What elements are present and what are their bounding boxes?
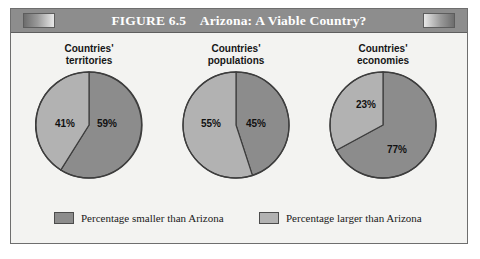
figure-title: FIGURE 6.5 Arizona: A Viable Country? [11,9,467,33]
pie-chart-heading: Countries' territories [19,43,159,67]
pie-chart-countries-economies: Countries' economies 77% 23% [313,33,453,208]
pie-chart-heading: Countries' economies [313,43,453,67]
pie-chart-heading-line1: Countries' [64,43,113,54]
pie-svg [35,71,143,179]
pie-chart-heading-line2: territories [19,55,159,67]
legend-item-smaller: Percentage smaller than Arizona [54,209,224,227]
pie-slice-value-smaller: 59% [97,118,117,129]
pie-chart-countries-territories: Countries' territories 59% 41% [19,33,159,208]
pie-chart-heading-line1: Countries' [211,43,260,54]
legend-item-larger: Percentage larger than Arizona [259,209,422,227]
figure-title-bar: FIGURE 6.5 Arizona: A Viable Country? [11,9,467,33]
pie-chart-heading-line2: economies [313,55,453,67]
pie-svg [182,71,290,179]
chart-legend: Percentage smaller than Arizona Percenta… [11,209,467,233]
legend-swatch-smaller-icon [54,212,74,224]
figure-root: FIGURE 6.5 Arizona: A Viable Country? Co… [0,0,480,259]
pie-chart-heading-line2: populations [166,55,306,67]
pie-chart-countries-populations: Countries' populations 45% 55% [166,33,306,208]
pie-charts-row: Countries' territories 59% 41% [11,33,467,208]
pie-graphic: 77% 23% [329,71,437,179]
legend-label-smaller: Percentage smaller than Arizona [81,212,224,224]
pie-slice-value-larger: 41% [55,118,75,129]
pie-slice-value-smaller: 77% [387,144,407,155]
pie-graphic: 59% 41% [35,71,143,179]
pie-chart-heading: Countries' populations [166,43,306,67]
legend-label-larger: Percentage larger than Arizona [286,212,422,224]
pie-slice-value-larger: 23% [356,99,376,110]
legend-swatch-larger-icon [259,212,279,224]
pie-slice-value-smaller: 45% [246,118,266,129]
pie-slice-value-larger: 55% [201,118,221,129]
pie-graphic: 45% 55% [182,71,290,179]
figure-container: FIGURE 6.5 Arizona: A Viable Country? Co… [10,8,468,244]
pie-svg [329,71,437,179]
pie-chart-heading-line1: Countries' [358,43,407,54]
